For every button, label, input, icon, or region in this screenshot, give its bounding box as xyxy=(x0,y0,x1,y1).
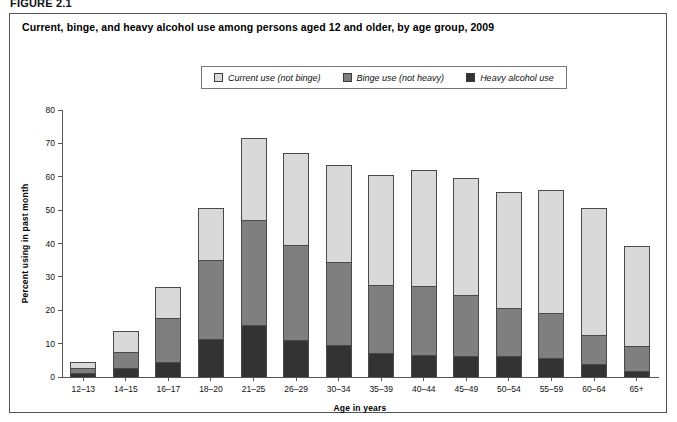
bar-segment-heavy-use xyxy=(454,356,478,377)
y-axis-tick: 10 xyxy=(46,339,62,349)
y-axis-tick-label: 50 xyxy=(46,205,55,215)
x-axis-tick-label: 50–54 xyxy=(488,384,531,394)
bar-segment-binge-use xyxy=(284,245,308,340)
stacked-bar xyxy=(283,153,309,377)
y-axis-tick: 80 xyxy=(46,105,62,115)
x-axis-tick-label: 60–64 xyxy=(573,384,616,394)
legend-item: Binge use (not heavy) xyxy=(343,73,445,83)
x-axis-tick: 35–39 xyxy=(360,378,403,394)
plot-area: 01020304050607080 xyxy=(62,110,658,377)
bar-column xyxy=(530,110,573,377)
bar-column xyxy=(403,110,446,377)
x-axis-tick-mark xyxy=(296,378,297,381)
bar-segment-current-use xyxy=(114,332,138,352)
y-axis-tick: 40 xyxy=(46,239,62,249)
legend-swatch-icon xyxy=(214,73,223,82)
y-axis-tick-label: 10 xyxy=(46,339,55,349)
bar-segment-heavy-use xyxy=(71,373,95,377)
x-axis-tick-label: 16–17 xyxy=(147,384,190,394)
stacked-bar xyxy=(538,190,564,377)
chart-title: Current, binge, and heavy alcohol use am… xyxy=(22,21,494,33)
bar-segment-current-use xyxy=(327,166,351,261)
x-axis-tick-label: 35–39 xyxy=(360,384,403,394)
y-axis-tick: 70 xyxy=(46,138,62,148)
bar-segment-heavy-use xyxy=(625,371,649,377)
bar-column xyxy=(275,110,318,377)
x-axis-tick: 21–25 xyxy=(232,378,275,394)
figure-container: FIGURE 2.1 Current, binge, and heavy alc… xyxy=(0,0,677,422)
bar-column xyxy=(232,110,275,377)
chart-legend: Current use (not binge)Binge use (not he… xyxy=(201,66,567,89)
bar-column xyxy=(105,110,148,377)
x-axis-tick: 18–20 xyxy=(190,378,233,394)
bar-segment-current-use xyxy=(156,288,180,319)
legend-swatch-icon xyxy=(466,73,475,82)
y-axis-tick-label: 0 xyxy=(50,372,55,382)
figure-label: FIGURE 2.1 xyxy=(10,0,72,9)
stacked-bar xyxy=(198,208,224,377)
legend-swatch-icon xyxy=(343,73,352,82)
bar-segment-binge-use xyxy=(454,295,478,356)
legend-label: Heavy alcohol use xyxy=(480,73,554,83)
x-axis-tick-label: 65+ xyxy=(615,384,658,394)
x-axis-tick-label: 12–13 xyxy=(62,384,105,394)
bar-column xyxy=(317,110,360,377)
x-axis-tick-mark xyxy=(466,378,467,381)
x-axis-tick-mark xyxy=(338,378,339,381)
x-axis-tick-label: 14–15 xyxy=(105,384,148,394)
x-axis-tick: 40–44 xyxy=(403,378,446,394)
y-axis-tick: 60 xyxy=(46,172,62,182)
bar-column xyxy=(573,110,616,377)
bar-segment-heavy-use xyxy=(582,364,606,377)
x-axis-tick-label: 45–49 xyxy=(445,384,488,394)
x-axis-ticks: 12–1314–1516–1718–2021–2526–2930–3435–39… xyxy=(62,378,658,394)
bar-segment-heavy-use xyxy=(156,362,180,377)
bar-segment-current-use xyxy=(539,191,563,313)
bar-segment-current-use xyxy=(369,176,393,284)
x-axis-tick: 14–15 xyxy=(105,378,148,394)
y-axis-tick-label: 60 xyxy=(46,172,55,182)
stacked-bar xyxy=(496,192,522,377)
x-axis-tick-mark xyxy=(253,378,254,381)
legend-label: Current use (not binge) xyxy=(228,73,321,83)
x-axis-tick-mark xyxy=(83,378,84,381)
x-axis-tick: 50–54 xyxy=(488,378,531,394)
x-axis-tick-mark xyxy=(125,378,126,381)
x-axis-tick: 45–49 xyxy=(445,378,488,394)
x-axis-tick-label: 21–25 xyxy=(232,384,275,394)
x-axis-tick-label: 26–29 xyxy=(275,384,318,394)
y-axis-tick: 30 xyxy=(46,272,62,282)
x-axis-tick-mark xyxy=(168,378,169,381)
x-axis-tick: 60–64 xyxy=(573,378,616,394)
bar-segment-heavy-use xyxy=(412,355,436,377)
x-axis-tick-mark xyxy=(210,378,211,381)
bar-segment-current-use xyxy=(284,154,308,245)
y-axis-tick-label: 40 xyxy=(46,239,55,249)
bar-column xyxy=(360,110,403,377)
stacked-bar xyxy=(624,246,650,377)
x-axis-tick-label: 30–34 xyxy=(317,384,360,394)
bar-segment-current-use xyxy=(582,209,606,335)
y-axis-tick: 50 xyxy=(46,205,62,215)
y-axis-tick-label: 70 xyxy=(46,138,55,148)
x-axis-tick-mark xyxy=(551,378,552,381)
legend-item: Current use (not binge) xyxy=(214,73,321,83)
bar-column xyxy=(445,110,488,377)
x-axis-tick-mark xyxy=(381,378,382,381)
stacked-bar xyxy=(411,170,437,377)
x-axis-tick: 26–29 xyxy=(275,378,318,394)
bar-segment-heavy-use xyxy=(284,340,308,377)
bar-segment-current-use xyxy=(242,139,266,220)
bar-segment-binge-use xyxy=(539,313,563,358)
bar-segment-binge-use xyxy=(412,286,436,355)
bar-column xyxy=(190,110,233,377)
stacked-bar xyxy=(70,362,96,377)
bar-column xyxy=(62,110,105,377)
stacked-bar xyxy=(113,331,139,377)
bar-segment-binge-use xyxy=(625,346,649,371)
bar-column xyxy=(615,110,658,377)
bar-column xyxy=(147,110,190,377)
stacked-bar xyxy=(326,165,352,377)
y-axis-tick-label: 20 xyxy=(46,305,55,315)
x-axis-tick: 55–59 xyxy=(530,378,573,394)
